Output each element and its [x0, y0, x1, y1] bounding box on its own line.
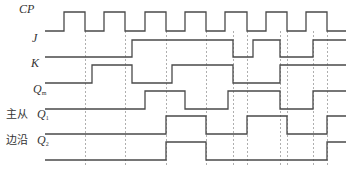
signal-label-q1-main: Q — [37, 107, 46, 121]
master-slave-label: 主从 — [6, 109, 28, 121]
timing-diagram — [0, 0, 353, 179]
signal-label-q1: Q1 — [37, 108, 49, 124]
signal-label-q2-sub: 2 — [46, 141, 49, 147]
signal-label-qm: Qm — [33, 83, 46, 99]
signal-label-cp: CP — [19, 3, 34, 15]
signal-label-k: K — [31, 57, 39, 69]
signal-label-q2-main: Q — [37, 133, 46, 147]
waveforms — [45, 12, 346, 160]
waveform-q1 — [45, 116, 346, 134]
signal-label-qm-sub: m — [42, 90, 47, 96]
waveform-cp — [45, 12, 346, 31]
waveform-qm — [45, 91, 346, 109]
signal-label-q1-sub: 1 — [46, 115, 49, 121]
edge-triggered-label: 边沿 — [6, 135, 28, 147]
signal-label-qm-main: Q — [33, 82, 42, 96]
signal-label-q2: Q2 — [37, 134, 49, 150]
waveform-q2 — [45, 142, 346, 160]
signal-label-j: J — [32, 32, 37, 44]
waveform-k — [45, 65, 346, 83]
waveform-j — [45, 40, 346, 57]
